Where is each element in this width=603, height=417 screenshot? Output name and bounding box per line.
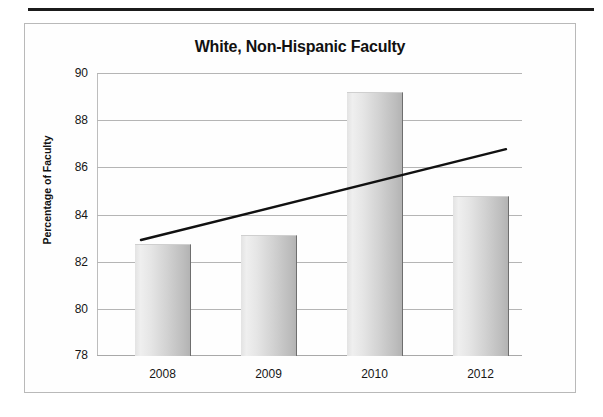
y-axis-title: Percentage of Faculty: [41, 110, 53, 270]
trendline-segment: [141, 149, 506, 240]
x-tick-label-2012: 2012: [467, 367, 494, 381]
gridline-90: 90: [97, 73, 522, 74]
bar-2012[interactable]: 2012: [453, 196, 509, 356]
plot-area: 90 88 86 84 82 80 78 2008: [97, 73, 522, 356]
y-tick-label-90: 90: [75, 66, 88, 80]
x-tick-label-2009: 2009: [255, 367, 282, 381]
gridline-88: 88: [97, 120, 522, 121]
bar-2010[interactable]: 2010: [347, 92, 403, 356]
y-tick-label-84: 84: [75, 208, 88, 222]
y-tick-label-86: 86: [75, 160, 88, 174]
y-tick-label-82: 82: [75, 255, 88, 269]
y-tick-label-80: 80: [75, 302, 88, 316]
chart-frame: White, Non-Hispanic Faculty Percentage o…: [24, 23, 576, 393]
gridline-86: 86: [97, 167, 522, 168]
bar-2008[interactable]: 2008: [135, 244, 191, 356]
bar-2009[interactable]: 2009: [241, 235, 297, 356]
y-tick-label-88: 88: [75, 113, 88, 127]
x-tick-label-2008: 2008: [149, 367, 176, 381]
x-tick-label-2010: 2010: [361, 367, 388, 381]
page-divider-rule: [28, 8, 594, 11]
chart-title: White, Non-Hispanic Faculty: [25, 38, 575, 56]
y-tick-label-78: 78: [75, 348, 88, 362]
chart-page: White, Non-Hispanic Faculty Percentage o…: [0, 0, 603, 417]
